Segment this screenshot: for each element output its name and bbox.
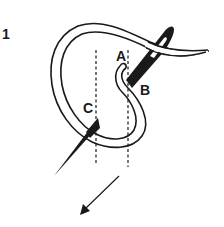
point-label-b: B (140, 82, 150, 98)
needle-lower (54, 118, 100, 176)
stitch-diagram: A B C (0, 0, 224, 227)
point-label-c: C (83, 100, 93, 116)
needle-upper (126, 26, 208, 88)
point-label-a: A (116, 48, 126, 64)
direction-arrow (80, 176, 119, 215)
thread-loop (51, 23, 209, 147)
